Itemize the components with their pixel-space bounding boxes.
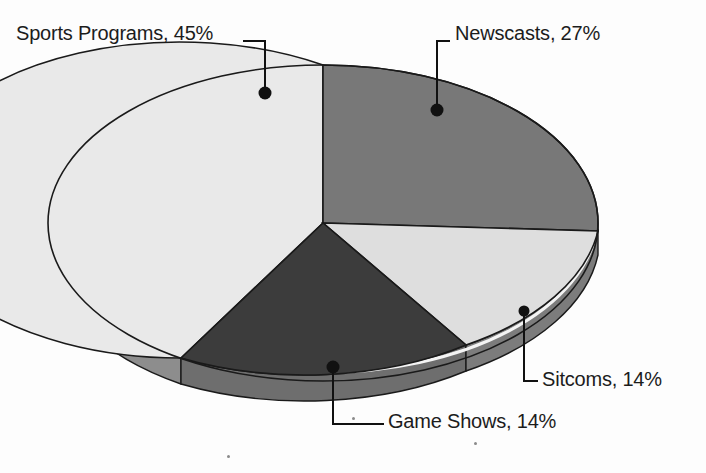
- pie-chart-page: Sports Programs, 45% Newscasts, 27% Sitc…: [0, 0, 706, 473]
- callout-dot-game-shows: [327, 361, 340, 374]
- scan-speck: [474, 442, 477, 445]
- pie-chart-graphic: [0, 0, 706, 473]
- scan-speck: [352, 417, 355, 420]
- slice-label-sitcoms: Sitcoms, 14%: [542, 368, 662, 391]
- scan-speck: [227, 455, 230, 458]
- callout-dot-newscasts: [431, 104, 444, 117]
- callout-dot-sports: [259, 87, 272, 100]
- slice-label-sports-programs: Sports Programs, 45%: [16, 22, 213, 45]
- slice-label-game-shows: Game Shows, 14%: [388, 410, 556, 433]
- callout-dot-sitcoms: [519, 306, 530, 317]
- slice-label-newscasts: Newscasts, 27%: [455, 22, 600, 45]
- pie-slice-newscasts[interactable]: [323, 65, 598, 231]
